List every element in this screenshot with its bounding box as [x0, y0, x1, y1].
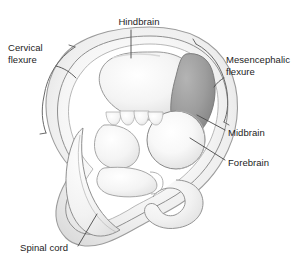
- label-midbrain: Midbrain: [228, 127, 294, 139]
- label-mesencephalic-flexure: Mesencephalic flexure: [226, 54, 298, 77]
- label-forebrain: Forebrain: [228, 157, 294, 169]
- label-spinal-cord: Spinal cord: [20, 242, 96, 254]
- label-cervical-flexure: Cervical flexure: [8, 42, 70, 65]
- embryo-brain-diagram: Hindbrain Cervical flexure Mesencephalic…: [0, 0, 298, 265]
- label-hindbrain: Hindbrain: [104, 16, 174, 28]
